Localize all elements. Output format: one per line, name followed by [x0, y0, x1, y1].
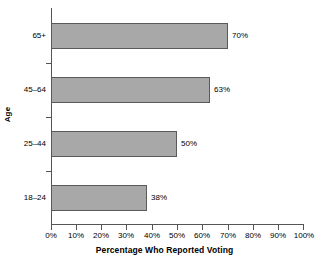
- x-axis-tick: [126, 225, 127, 230]
- x-axis-title: Percentage Who Reported Voting: [0, 245, 329, 255]
- x-axis-tick: [152, 225, 153, 230]
- x-axis-tick: [303, 225, 304, 230]
- y-axis-category-label-text: 45–64: [0, 86, 46, 94]
- y-axis-category-label-text: 18–24: [0, 194, 46, 202]
- x-axis-tick-label: 100%: [287, 232, 321, 240]
- bar-chart: Age 65+ 70% 45–64 63% 25–44 50% 18–24 38…: [0, 0, 329, 258]
- bar-value-18-24: 38%: [151, 194, 167, 202]
- y-axis-category-label: 65+: [0, 32, 46, 40]
- x-axis-tick: [278, 225, 279, 230]
- y-axis-category-label: 18–24: [0, 194, 46, 202]
- y-axis-category-label-text: 65+: [0, 32, 46, 40]
- y-axis-tick: [46, 117, 51, 118]
- bar-value-65-plus: 70%: [232, 32, 248, 40]
- bar-value-45-64: 63%: [214, 86, 230, 94]
- x-axis-tick: [101, 225, 102, 230]
- y-axis-category-label: 45–64: [0, 86, 46, 94]
- x-axis-tick: [253, 225, 254, 230]
- y-axis-title: Age: [3, 95, 12, 135]
- bar-25-44: [51, 131, 177, 157]
- x-axis-tick: [228, 225, 229, 230]
- bar-value-25-44: 50%: [181, 140, 197, 148]
- x-axis-tick: [202, 225, 203, 230]
- bar-18-24: [51, 185, 147, 211]
- y-axis-category-label: 25–44: [0, 140, 46, 148]
- bar-65-plus: [51, 23, 228, 49]
- y-axis-tick: [46, 63, 51, 64]
- x-axis-tick: [51, 225, 52, 230]
- y-axis-category-label-text: 25–44: [0, 140, 46, 148]
- x-axis-tick: [76, 225, 77, 230]
- x-axis-tick: [177, 225, 178, 230]
- y-axis-tick: [46, 171, 51, 172]
- bar-45-64: [51, 77, 210, 103]
